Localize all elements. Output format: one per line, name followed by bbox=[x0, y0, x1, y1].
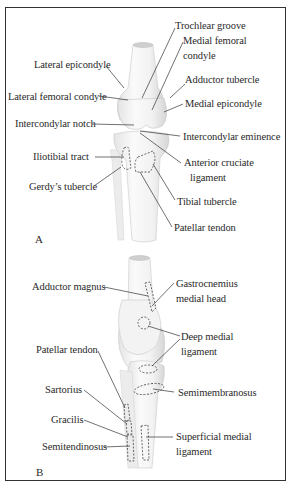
label-lateral-femoral-condyle: Lateral femoral condyle bbox=[8, 91, 107, 102]
label-superficial-medial-line1: Superficial medial bbox=[176, 431, 251, 442]
label-patellar-tendon-a: Patellar tendon bbox=[174, 222, 236, 233]
label-superficial-medial-line2: ligament bbox=[176, 446, 212, 457]
label-anterior-cruciate-line1: Anterior cruciate bbox=[184, 157, 254, 168]
label-iliotibial-tract: Iliotibial tract bbox=[33, 151, 89, 162]
label-gerdys-tubercle: Gerdy’s tubercle bbox=[29, 181, 97, 192]
label-anterior-cruciate-line2: ligament bbox=[190, 172, 226, 183]
label-medial-femoral-condyle-line2: condyle bbox=[183, 50, 216, 61]
label-gastrocnemius-line2: medial head bbox=[176, 293, 226, 304]
label-deep-medial-line2: ligament bbox=[181, 346, 217, 357]
label-deep-medial-line1: Deep medial bbox=[181, 331, 233, 342]
label-intercondylar-eminence: Intercondylar eminence bbox=[183, 131, 280, 142]
panel-a-bones bbox=[110, 43, 169, 243]
label-gracilis: Gracilis bbox=[51, 414, 83, 425]
label-patellar-tendon-b: Patellar tendon bbox=[36, 344, 98, 355]
label-medial-epicondyle: Medial epicondyle bbox=[185, 98, 262, 109]
label-adductor-tubercle: Adductor tubercle bbox=[185, 74, 259, 85]
label-medial-femoral-condyle-line1: Medial femoral bbox=[183, 35, 247, 46]
label-trochlear-groove: Trochlear groove bbox=[175, 20, 246, 31]
label-tibial-tubercle: Tibial tubercle bbox=[177, 196, 237, 207]
label-gastrocnemius-line1: Gastrocnemius bbox=[176, 278, 238, 289]
label-lateral-epicondyle: Lateral epicondyle bbox=[34, 59, 111, 70]
label-intercondylar-notch: Intercondylar notch bbox=[15, 118, 96, 129]
panel-letter-b: B bbox=[36, 466, 43, 478]
label-adductor-magnus: Adductor magnus bbox=[32, 281, 105, 292]
label-sartorius: Sartorius bbox=[45, 384, 82, 395]
panel-letter-a: A bbox=[35, 233, 43, 245]
label-semimembranosus: Semimembranosus bbox=[178, 387, 256, 398]
label-semitendinosus: Semitendinosus bbox=[42, 441, 107, 452]
